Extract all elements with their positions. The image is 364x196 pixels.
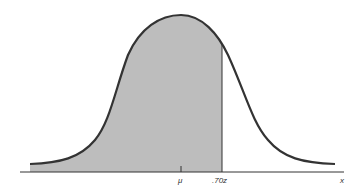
x-axis-label: x [339,176,345,185]
cutoff-label: .70z [212,176,227,185]
mu-label: μ [177,176,183,185]
shaded-area [30,15,222,172]
normal-curve-chart: μ .70z x [0,0,364,196]
